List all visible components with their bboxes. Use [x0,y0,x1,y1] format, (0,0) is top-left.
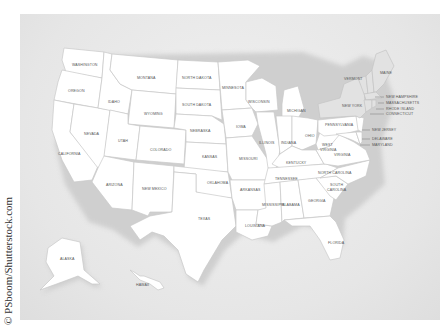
label-alaska: ALASKA [60,257,75,261]
label-massachusetts: MASSACHUSETTS [386,101,420,105]
label-colorado: COLORADO [150,148,171,152]
state-colorado[interactable] [136,126,186,164]
label-south-carolina-1: SOUTH [330,183,343,187]
label-oklahoma: OKLAHOMA [207,181,229,185]
label-rhode-island: RHODE ISLAND [386,107,414,111]
label-kentucky: KENTUCKY [286,161,307,165]
label-maine: MAINE [380,71,392,75]
label-missouri: MISSOURI [239,157,258,161]
label-washington: WASHINGTON [72,63,98,67]
label-north-dakota: NORTH DAKOTA [182,76,212,80]
label-illinois: ILLINOIS [259,141,275,145]
label-georgia: GEORGIA [308,199,326,203]
label-nebraska: NEBRASKA [190,129,211,133]
label-california: CALIFORNIA [58,152,81,156]
state-north-dakota[interactable] [176,60,220,90]
label-nevada: NEVADA [84,132,100,136]
label-new-mexico: NEW MEXICO [142,187,167,191]
state-hawaii[interactable] [130,270,164,290]
label-montana: MONTANA [137,76,156,80]
label-iowa: IOWA [236,125,246,129]
state-iowa[interactable] [222,108,258,138]
label-oregon: OREGON [68,89,85,93]
label-texas: TEXAS [198,217,211,221]
label-maryland: MARYLAND [372,143,393,147]
label-south-carolina-2: CAROLINA [327,188,347,192]
label-connecticut: CONNECTICUT [386,112,414,116]
state-florida[interactable] [284,216,344,260]
us-map: WASHINGTON OREGON CALIFORNIA NEVADA IDAH… [0,0,445,329]
label-florida: FLORIDA [328,241,345,245]
label-new-hampshire: NEW HAMPSHIRE [386,95,419,99]
label-ohio: OHIO [305,134,315,138]
label-pennsylvania: PENNSYLVANIA [325,123,354,127]
label-alabama: ALABAMA [282,203,300,207]
label-kansas: KANSAS [202,155,218,159]
label-wisconsin: WISCONSIN [248,100,270,104]
label-vermont: VERMONT [344,77,363,81]
state-wyoming[interactable] [128,90,176,128]
label-west-virginia-1: WEST [322,143,333,147]
label-minnesota: MINNESOTA [222,86,244,90]
label-new-jersey: NEW JERSEY [372,128,397,132]
label-north-carolina: NORTH CAROLINA [318,171,352,175]
label-virginia: VIRGINIA [334,153,351,157]
label-west-virginia-2: VIRGINIA [320,148,337,152]
label-new-york: NEW YORK [342,104,363,108]
label-utah: UTAH [118,139,128,143]
label-hawaii: HAWAII [136,283,149,287]
label-louisiana: LOUISIANA [245,224,266,228]
label-delaware: DELAWARE [372,137,393,141]
label-idaho: IDAHO [108,100,120,104]
label-arkansas: ARKANSAS [240,188,261,192]
label-tennessee: TENNESSEE [275,177,298,181]
label-south-dakota: SOUTH DAKOTA [182,103,212,107]
copyright-credit: © PSboom/Shutterstock.com [2,197,14,325]
label-arizona: ARIZONA [106,183,123,187]
label-indiana: INDIANA [281,141,297,145]
label-michigan: MICHIGAN [287,109,306,113]
label-wyoming: WYOMING [144,112,163,116]
